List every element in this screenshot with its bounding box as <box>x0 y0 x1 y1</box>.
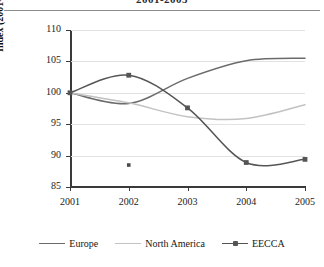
data-point-marker <box>185 105 190 110</box>
chart-title: 2001-2005 <box>0 0 324 5</box>
legend-item[interactable]: Europe <box>39 238 98 249</box>
x-tick-label: 2001 <box>50 196 90 207</box>
y-tick-label: 90 <box>0 149 61 160</box>
data-point-marker <box>303 157 308 162</box>
stray-point-marker <box>127 163 131 167</box>
y-tick-label: 95 <box>0 117 61 128</box>
y-axis-title: Index (2001=100) <box>0 0 5 52</box>
y-tick-label: 85 <box>0 180 61 191</box>
series-line-europe <box>70 58 305 104</box>
x-tick-label: 2004 <box>226 196 266 207</box>
data-point-marker <box>68 90 73 95</box>
legend-item[interactable]: EECCA <box>222 238 285 249</box>
legend-swatch-icon <box>222 239 248 248</box>
series-line-eecca <box>70 75 305 166</box>
legend-swatch-icon <box>39 239 65 248</box>
legend-swatch-icon <box>115 239 141 248</box>
series-layer <box>70 30 306 188</box>
x-tick-label: 2005 <box>285 196 324 207</box>
x-tick-label: 2003 <box>168 196 208 207</box>
y-tick-label: 100 <box>0 86 61 97</box>
legend-item[interactable]: North America <box>115 238 205 249</box>
chart-title-strip: 2001-2005 <box>0 0 324 9</box>
title-divider <box>4 10 320 11</box>
y-tick-label: 110 <box>0 23 61 34</box>
legend-label: EECCA <box>252 238 285 249</box>
chart-container: 2001-2005 110105100959085 20012002200320… <box>0 0 324 267</box>
x-tick-label: 2002 <box>109 196 149 207</box>
y-tick-label: 105 <box>0 54 61 65</box>
legend-label: North America <box>145 238 205 249</box>
legend-label: Europe <box>69 238 98 249</box>
plot-area <box>70 30 305 187</box>
chart-legend: EuropeNorth AmericaEECCA <box>0 238 324 249</box>
data-point-marker <box>244 160 249 165</box>
data-point-marker <box>126 73 131 78</box>
